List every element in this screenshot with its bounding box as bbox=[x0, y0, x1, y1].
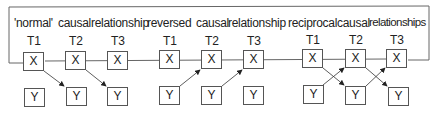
group-normal-title-c: relationship bbox=[91, 16, 149, 30]
group-reversed-title-a: reversed bbox=[147, 16, 191, 30]
x-node: X bbox=[345, 49, 366, 68]
group-reciprocal-title-a: reciprocal bbox=[288, 16, 337, 30]
group-reciprocal-title-c: relationships bbox=[369, 16, 426, 28]
time-label: T2 bbox=[64, 34, 88, 48]
time-label: T1 bbox=[22, 34, 46, 48]
group-reversed-title-c: relationship bbox=[228, 16, 286, 30]
x-node: X bbox=[23, 52, 44, 71]
group-normal-title-a: 'normal' bbox=[14, 16, 53, 30]
x-node: X bbox=[386, 49, 407, 68]
y-node: Y bbox=[303, 85, 324, 104]
time-label: T2 bbox=[200, 34, 224, 48]
x-node: X bbox=[302, 49, 323, 68]
y-node: Y bbox=[345, 86, 366, 105]
time-label: T3 bbox=[106, 34, 130, 48]
time-label: T3 bbox=[385, 33, 409, 47]
causal-relationship-diagram: 'normal' causal relationship T1 T2 T3 X … bbox=[0, 0, 436, 115]
time-label: T3 bbox=[242, 34, 266, 48]
y-node: Y bbox=[201, 86, 222, 105]
time-label: T1 bbox=[158, 34, 182, 48]
x-node: X bbox=[201, 50, 222, 69]
time-label: T2 bbox=[344, 33, 368, 47]
x-node: X bbox=[243, 50, 264, 69]
y-node: Y bbox=[24, 88, 45, 107]
y-node: Y bbox=[107, 87, 128, 106]
y-node: Y bbox=[66, 87, 87, 106]
time-label: T1 bbox=[301, 33, 325, 47]
x-node: X bbox=[159, 50, 180, 69]
group-reversed-title-b: causal bbox=[196, 16, 229, 30]
group-normal-title-b: causal bbox=[58, 16, 91, 30]
y-node: Y bbox=[243, 86, 264, 105]
x-node: X bbox=[107, 51, 128, 70]
group-reciprocal-title-b: causal bbox=[337, 16, 370, 30]
y-node: Y bbox=[388, 87, 409, 106]
y-node: Y bbox=[159, 86, 180, 105]
x-node: X bbox=[65, 51, 86, 70]
